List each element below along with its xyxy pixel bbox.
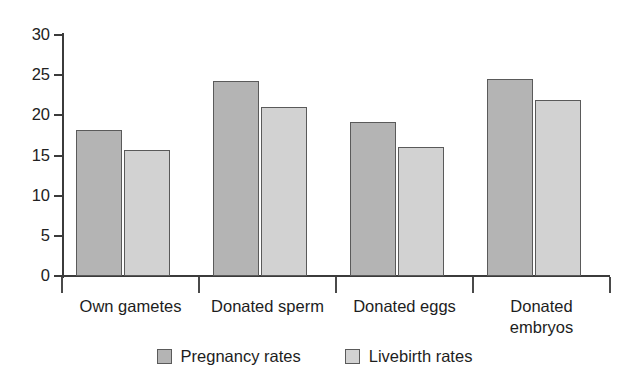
x-axis-label-donated-embryos: Donated embryos bbox=[473, 296, 610, 338]
y-axis-tick-label: 0 bbox=[14, 267, 50, 283]
y-axis-tick-label: 5 bbox=[14, 227, 50, 243]
y-axis-tick-label: 30 bbox=[14, 26, 50, 42]
bar-livebirth-rates-donated-sperm bbox=[261, 107, 307, 276]
x-axis-label-own-gametes: Own gametes bbox=[62, 296, 199, 317]
bar-livebirth-rates-donated-eggs bbox=[398, 147, 444, 276]
bar-livebirth-rates-own-gametes bbox=[124, 150, 170, 276]
bar-pregnancy-rates-donated-embryos bbox=[487, 79, 533, 276]
y-axis-tick-label: 25 bbox=[14, 66, 50, 82]
category-separator bbox=[609, 277, 611, 293]
category-separator bbox=[61, 277, 63, 293]
bars-layer bbox=[62, 35, 610, 276]
legend-label: Livebirth rates bbox=[369, 348, 473, 365]
bar-pregnancy-rates-donated-sperm bbox=[213, 81, 259, 276]
bar-pregnancy-rates-donated-eggs bbox=[350, 122, 396, 276]
legend-swatch-icon bbox=[157, 349, 172, 364]
legend-item-livebirth-rates[interactable]: Livebirth rates bbox=[345, 348, 473, 365]
legend-item-pregnancy-rates[interactable]: Pregnancy rates bbox=[157, 348, 301, 365]
y-axis-tick-label: 15 bbox=[14, 147, 50, 163]
bar-pregnancy-rates-own-gametes bbox=[76, 130, 122, 276]
y-axis-tick-label: 10 bbox=[14, 187, 50, 203]
bar-chart: 051015202530 Own gametesDonated spermDon… bbox=[0, 0, 629, 390]
chart-legend: Pregnancy ratesLivebirth rates bbox=[0, 348, 629, 365]
y-axis-tick-label: 20 bbox=[14, 106, 50, 122]
category-separator bbox=[335, 277, 337, 293]
legend-swatch-icon bbox=[345, 349, 360, 364]
x-axis-label-donated-sperm: Donated sperm bbox=[199, 296, 336, 317]
category-separator bbox=[472, 277, 474, 293]
x-axis-label-donated-eggs: Donated eggs bbox=[336, 296, 473, 317]
category-separator bbox=[198, 277, 200, 293]
legend-label: Pregnancy rates bbox=[181, 348, 301, 365]
bar-livebirth-rates-donated-embryos bbox=[535, 100, 581, 276]
